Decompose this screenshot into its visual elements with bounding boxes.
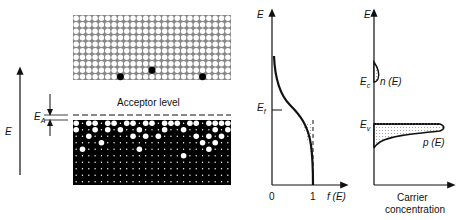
energy-axis-left: E xyxy=(5,70,20,175)
carrier-x-label-1: Carrier xyxy=(397,192,428,203)
n-label: n (E) xyxy=(380,76,402,87)
fermi-level-label: Ef xyxy=(257,102,267,115)
fermi-y-label: E xyxy=(257,9,264,20)
lattice-bottom xyxy=(73,120,231,185)
tick-1: 1 xyxy=(310,191,316,202)
lattice-top xyxy=(73,15,231,80)
acceptor-level-label: Acceptor level xyxy=(117,97,180,108)
p-label: p (E) xyxy=(422,137,445,148)
acceptor-gap-label: EA xyxy=(34,111,46,124)
ev-label: Ev xyxy=(360,119,371,132)
carrier-x-label-2: concentration xyxy=(385,204,445,215)
fermi-function-plot: E Ef 0 1 f (E) xyxy=(257,9,346,202)
carrier-concentration-plot: E Ec n (E) Ev p (E) Carrier concentratio… xyxy=(360,9,452,215)
energy-axis-label: E xyxy=(5,126,12,137)
fermi-x-label: f (E) xyxy=(327,191,346,202)
tick-0: 0 xyxy=(269,191,275,202)
carrier-y-label: E xyxy=(364,9,371,20)
semiconductor-acceptor-diagram: E Acceptor level EA E Ef 0 1 f (E) xyxy=(0,0,465,220)
ec-label: Ec xyxy=(360,76,371,89)
